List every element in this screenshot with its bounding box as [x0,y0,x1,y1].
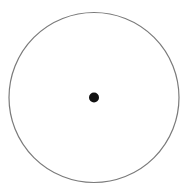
circle-diagram [0,0,187,188]
center-point [89,93,99,103]
diagram-canvas [0,0,187,188]
